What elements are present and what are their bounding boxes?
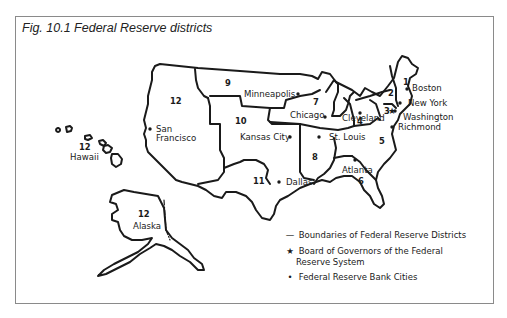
label-kansas-city: Kansas City (240, 132, 290, 142)
boundary-7-8 (270, 122, 354, 130)
city-dot-minneapolis (296, 92, 299, 95)
label-cleveland: Cleveland (342, 113, 385, 123)
city-dot-st-louis (317, 135, 320, 138)
district-number-2: 2 (388, 88, 394, 98)
district-number-11: 11 (253, 176, 265, 186)
district-number-5: 5 (379, 136, 385, 146)
city-dot-new-york (398, 101, 401, 104)
city-dot-boston (405, 87, 408, 90)
hawaii-island-1 (56, 128, 60, 132)
boundary-12-9 (195, 69, 208, 98)
label-alaska: Alaska (133, 221, 161, 231)
city-dot-san-francisco (148, 127, 151, 130)
label-new-york: New York (408, 98, 447, 108)
label-richmond: Richmond (398, 122, 441, 132)
city-dot-icon: • (284, 272, 296, 283)
label-boston: Boston (412, 83, 442, 93)
label-washington: Washington (403, 112, 454, 122)
city-dot-atlanta (353, 158, 356, 161)
hawaii-island-5 (103, 145, 112, 153)
hawaii-island-3 (85, 135, 92, 140)
district-number-12-hawaii: 12 (79, 142, 91, 152)
legend-cities: • Federal Reserve Bank Cities (284, 272, 417, 283)
legend-cities-label: Federal Reserve Bank Cities (299, 272, 418, 282)
federal-reserve-map: ★ 1 2 3 4 5 6 7 8 9 10 11 12 12 12 Bosto… (0, 0, 507, 318)
district-number-10: 10 (235, 116, 247, 126)
boundary-line-icon: — (284, 230, 296, 241)
legend-boundaries-label: Boundaries of Federal Reserve Districts (299, 230, 466, 240)
hawaii-island-6 (111, 154, 122, 167)
label-atlanta: Atlanta (342, 165, 373, 175)
star-icon: ★ (284, 246, 296, 257)
hawaii-island-2 (66, 126, 72, 132)
label-dallas: Dallas (286, 177, 313, 187)
boundary-1-2 (390, 66, 398, 106)
label-hawaii: Hawaii (70, 152, 99, 162)
legend-board-label-line2: Reserve System (296, 257, 365, 267)
legend-board: ★ Board of Governors of the Federal (284, 246, 443, 257)
michigan-outline (326, 80, 354, 116)
district-number-8: 8 (312, 152, 318, 162)
label-minneapolis: Minneapolis (244, 89, 296, 99)
label-francisco: Francisco (156, 133, 196, 143)
city-dot-richmond (390, 125, 393, 128)
district-number-12-alaska: 12 (138, 209, 150, 219)
legend-board-line2: Reserve System (296, 257, 365, 268)
district-number-1: 1 (403, 77, 409, 87)
district-number-6: 6 (358, 176, 364, 186)
district-number-7: 7 (313, 97, 319, 107)
district-number-9: 9 (225, 78, 231, 88)
city-dot-dallas (277, 180, 280, 183)
boundary-12-10 (198, 98, 224, 184)
district-number-3: 3 (384, 106, 390, 116)
alaska-outline (98, 190, 204, 276)
label-st-louis: St. Louis (329, 132, 366, 142)
label-chicago: Chicago (290, 110, 325, 120)
boundary-8-6b (334, 156, 352, 158)
district-number-12-west: 12 (170, 96, 182, 106)
legend-boundaries: — Boundaries of Federal Reserve District… (284, 230, 466, 241)
legend-board-label-line1: Board of Governors of the Federal (299, 246, 443, 256)
